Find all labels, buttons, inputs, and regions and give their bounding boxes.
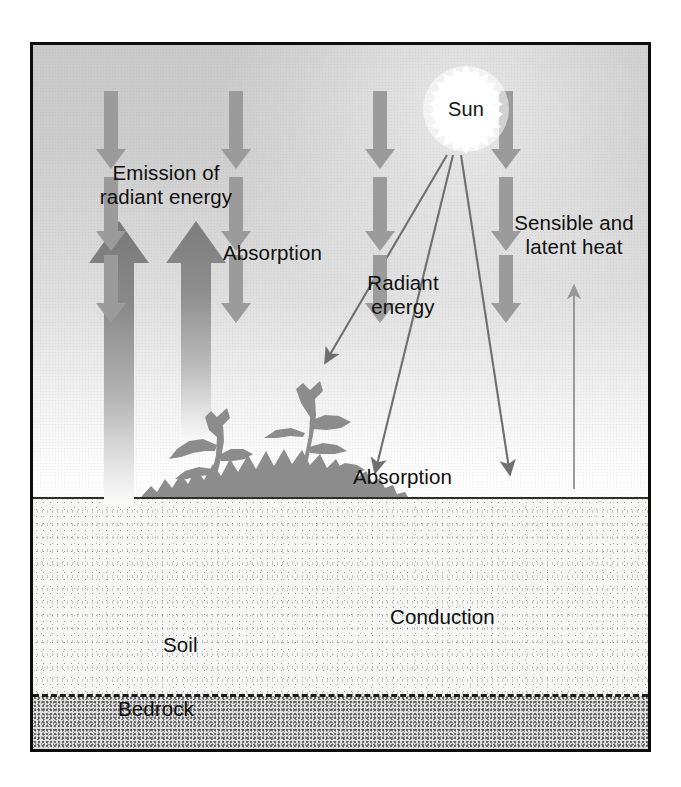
emission-arrow-right xyxy=(166,221,226,445)
sun-label: Sun xyxy=(418,61,514,157)
label-bedrock: Bedrock xyxy=(118,697,194,721)
emission-arrow-left xyxy=(89,221,149,505)
label-absorption-ground: Absorption xyxy=(353,465,452,489)
label-soil: Soil xyxy=(163,633,198,657)
label-absorption-canopy: Absorption xyxy=(223,241,322,265)
label-radiant-energy: Radiant energy xyxy=(343,271,463,319)
label-conduction: Conduction xyxy=(390,605,495,629)
label-emission-of-radiant-energy: Emission of radiant energy xyxy=(71,161,261,209)
diagram-canvas: Sun Emission of radiant energy Absorptio… xyxy=(0,0,681,787)
sun-graphic: Sun xyxy=(418,61,514,157)
diagram-vectors xyxy=(33,45,648,749)
diagram-frame: Sun Emission of radiant energy Absorptio… xyxy=(30,42,651,752)
label-sensible-and-latent-heat: Sensible and latent heat xyxy=(483,211,651,259)
